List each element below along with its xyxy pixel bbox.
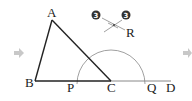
label-c: C	[107, 80, 116, 95]
svg-text:3: 3	[124, 12, 129, 20]
label-a: A	[47, 5, 57, 20]
arc-mark-1	[102, 18, 125, 30]
construction-diagram: 3 3 A B C P Q D R	[0, 0, 192, 101]
label-d: D	[166, 80, 175, 95]
label-r: R	[126, 25, 135, 40]
step-badge-2: 3	[122, 11, 131, 20]
arc-pq	[77, 50, 145, 84]
label-p: P	[67, 80, 74, 95]
segment-ab	[35, 20, 52, 81]
label-b: B	[25, 75, 34, 90]
segment-ac	[52, 20, 111, 81]
right-arrow-icon	[183, 48, 192, 58]
label-q: Q	[147, 80, 157, 95]
step-badge-1: 3	[92, 11, 101, 20]
arc-mark-2	[104, 20, 122, 32]
svg-text:3: 3	[94, 12, 99, 20]
left-arrow-icon	[14, 48, 24, 58]
point-r-dot	[113, 24, 115, 26]
